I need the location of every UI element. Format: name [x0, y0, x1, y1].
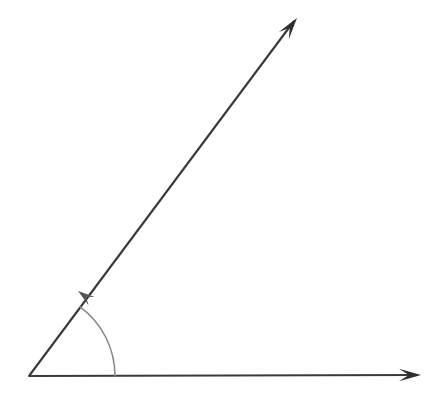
angle-diagram-canvas — [0, 0, 437, 401]
horizontal-ray-line — [29, 375, 418, 376]
angle-diagram-svg — [0, 0, 437, 401]
angle-vertex — [28, 375, 30, 377]
diagram-background — [0, 0, 437, 401]
